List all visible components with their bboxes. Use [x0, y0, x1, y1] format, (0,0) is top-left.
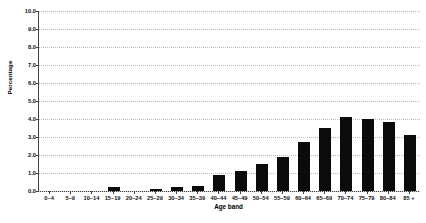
bar — [404, 135, 416, 191]
x-axis-tick-label: 75–79 — [359, 195, 375, 201]
y-axis-tick-labels: 0.01.02.03.04.05.06.07.08.09.010.0 — [13, 8, 36, 191]
x-axis-tick-label: 70–74 — [337, 195, 353, 201]
y-axis-tick-label: 0.0 — [13, 188, 36, 194]
bar-chart-figure: Percentage 0.01.02.03.04.05.06.07.08.09.… — [0, 0, 426, 223]
y-axis-tick-label: 2.0 — [13, 152, 36, 158]
y-axis-tick-label: 1.0 — [13, 170, 36, 176]
bar — [319, 128, 331, 191]
bar — [298, 142, 310, 191]
y-axis-tick-label: 8.0 — [13, 44, 36, 50]
x-axis-tick-label: 25–29 — [147, 195, 163, 201]
x-axis-tick-label: 50–54 — [253, 195, 269, 201]
bar — [235, 171, 247, 191]
y-axis-tick-label: 3.0 — [13, 134, 36, 140]
bar-series — [39, 11, 420, 191]
x-axis-tick-label: 30–34 — [168, 195, 184, 201]
y-axis-tick-label: 9.0 — [13, 26, 36, 32]
y-axis-tick-label: 6.0 — [13, 80, 36, 86]
x-axis-tick-label: 10–14 — [83, 195, 99, 201]
y-axis-tick-label: 7.0 — [13, 62, 36, 68]
x-axis-tick-label: 45–49 — [232, 195, 248, 201]
cut-caption-strip — [24, 215, 418, 219]
x-axis-tick-label: 85 + — [403, 195, 414, 201]
bar — [256, 164, 268, 191]
bar — [277, 157, 289, 191]
x-axis-tick-label: 60–64 — [295, 195, 311, 201]
x-axis-tick-label: 5–9 — [66, 195, 76, 201]
bar — [340, 117, 352, 191]
y-axis-tick-label: 4.0 — [13, 116, 36, 122]
x-axis-tick-label: 35–39 — [189, 195, 205, 201]
bar — [362, 119, 374, 191]
x-axis-tick-label: 65–69 — [316, 195, 332, 201]
x-axis-title: Age band — [38, 203, 419, 210]
plot-area — [38, 11, 420, 192]
x-axis-tick-label: 15–19 — [105, 195, 121, 201]
y-axis-title: Percentage — [6, 42, 13, 114]
y-axis-tick-label: 10.0 — [13, 8, 36, 14]
y-axis-tick-label: 5.0 — [13, 98, 36, 104]
x-axis-tick-label: 55–59 — [274, 195, 290, 201]
x-axis-tick-label: 80–84 — [380, 195, 396, 201]
x-axis-tick-label: 0–4 — [44, 195, 54, 201]
bar — [383, 122, 395, 191]
x-axis-tick-label: 20–24 — [126, 195, 142, 201]
bar — [213, 175, 225, 191]
x-axis-tick-label: 40–44 — [210, 195, 226, 201]
